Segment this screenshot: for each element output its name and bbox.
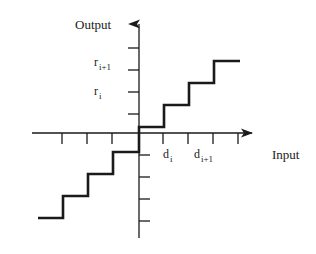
y-tick-label-r-i-plus-1: ri+1 xyxy=(94,56,110,68)
x-tick-label-d-i-plus-1-base: d xyxy=(194,147,200,161)
x-tick-label-d-i-base: d xyxy=(163,147,169,161)
x-axis-ticks xyxy=(62,133,238,144)
y-tick-label-r-i-base: r xyxy=(94,84,98,98)
plot-canvas xyxy=(0,0,316,254)
x-tick-label-d-i: di xyxy=(163,148,172,160)
x-tick-label-d-i-sub: i xyxy=(170,154,173,164)
y-axis-title: Output xyxy=(75,18,111,31)
y-tick-label-r-i: ri xyxy=(94,85,101,97)
y-tick-label-r-i-sub: i xyxy=(99,91,102,101)
x-tick-label-d-i-plus-1-sub: i+1 xyxy=(201,154,213,164)
y-tick-label-r-i-plus-1-base: r xyxy=(94,55,98,69)
quantizer-staircase-figure: Output Input ri+1 ri di di+1 xyxy=(0,0,316,254)
y-tick-label-r-i-plus-1-sub: i+1 xyxy=(99,62,111,72)
x-tick-label-d-i-plus-1: di+1 xyxy=(194,148,212,160)
x-axis-title: Input xyxy=(272,148,299,161)
x-axis xyxy=(32,133,252,144)
